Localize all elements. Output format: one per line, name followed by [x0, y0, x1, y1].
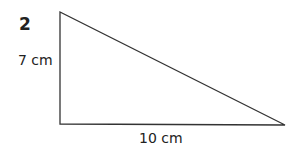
- right-triangle: [0, 0, 300, 150]
- base-label: 10 cm: [139, 130, 183, 146]
- height-label: 7 cm: [18, 52, 53, 68]
- diagram: 2 7 cm 10 cm: [0, 0, 300, 150]
